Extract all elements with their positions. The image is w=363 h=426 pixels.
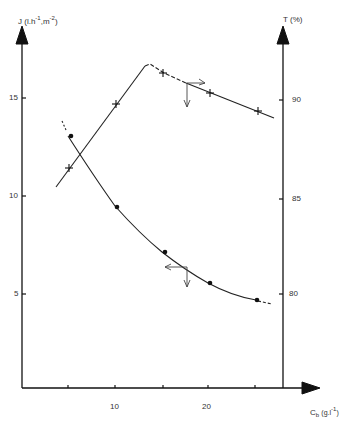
tick-label-right-80: 80 [289,289,298,298]
tick-label-left-10: 10 [9,191,18,200]
x-axis-arrow-icon [302,382,320,394]
left-axis-arrow-icon [16,26,28,44]
series-j-markers [69,134,260,303]
left-axis-title: J (l.h-1,m-2) [18,15,58,26]
right-axis-title: T (%) [283,15,302,24]
tick-label-left-5: 5 [14,289,18,298]
x-axis [22,382,320,394]
left-axis-unit-close: ) [55,17,58,26]
series-j-flux [62,121,272,304]
tick-label-left-15: 15 [9,93,18,102]
left-y-axis [16,26,28,388]
x-axis-unit-open: (g.l [321,409,331,416]
x-axis-unit-close: ) [336,409,338,416]
t-axis-indicator-arrows [184,79,205,107]
tick-label-x-20: 20 [202,402,211,411]
chart-canvas [0,0,363,426]
right-y-axis [277,26,289,388]
left-axis-unit-open: (l.h [24,17,35,26]
right-axis-arrow-icon [277,26,289,44]
tick-label-x-10: 10 [110,402,119,411]
left-axis-unit-mid: ,m [41,17,50,26]
left-axis-symbol: J [18,17,22,26]
x-axis-subscript: b [316,412,319,418]
tick-label-right-85: 85 [292,194,301,203]
series-t-markers [65,69,262,172]
tick-label-right-90: 90 [292,95,301,104]
x-axis-title: Cb (g.l-1) [310,406,339,418]
j-axis-indicator-arrows [165,264,190,287]
